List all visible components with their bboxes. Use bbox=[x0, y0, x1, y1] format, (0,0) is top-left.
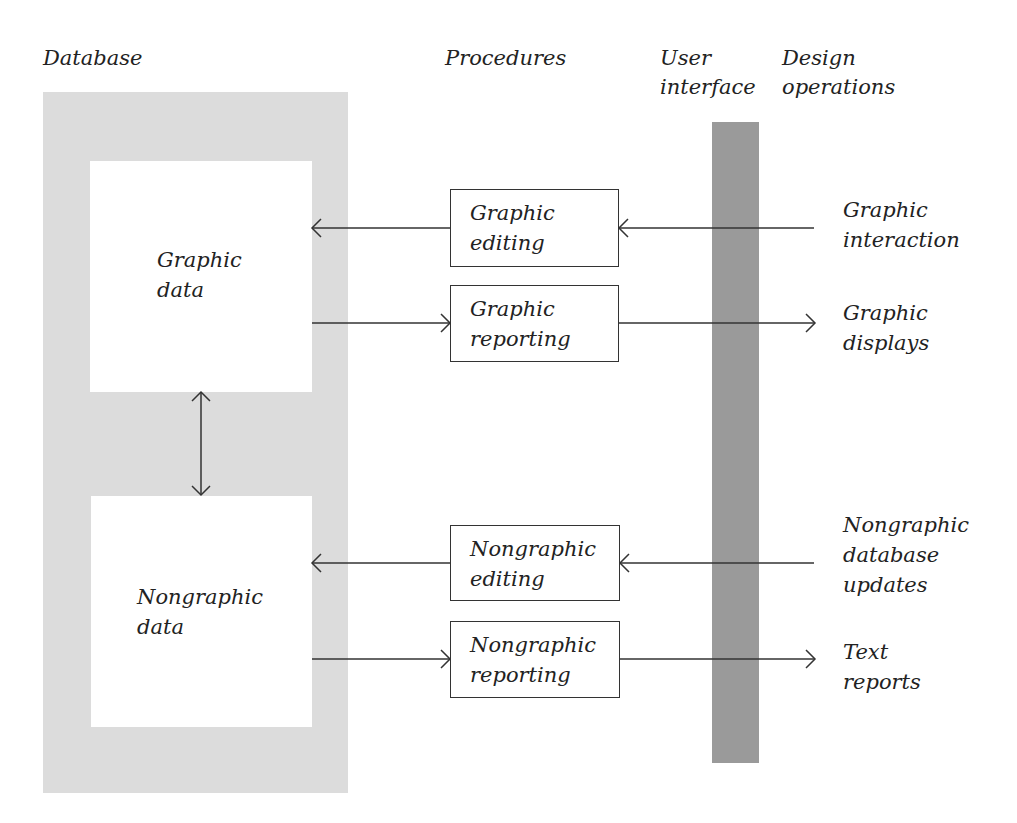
arrow-nongraphic-data-to-reporting bbox=[312, 650, 450, 668]
connector-arrows bbox=[0, 0, 1017, 823]
arrow-nongraphic-reporting-to-text-reports bbox=[620, 650, 815, 668]
arrow-interaction-to-graphic-editing bbox=[619, 219, 814, 237]
graphic-displays-line1: Graphic bbox=[843, 298, 929, 328]
bidirectional-arrow bbox=[192, 392, 210, 495]
nongraphic-updates-line3: updates bbox=[843, 570, 969, 600]
text-reports-label: Text reports bbox=[843, 637, 921, 697]
text-reports-line1: Text bbox=[843, 637, 921, 667]
graphic-displays-line2: displays bbox=[843, 328, 929, 358]
graphic-interaction-label: Graphic interaction bbox=[843, 195, 960, 255]
arrow-graphic-data-to-reporting bbox=[312, 314, 450, 332]
graphic-interaction-line1: Graphic bbox=[843, 195, 960, 225]
nongraphic-updates-label: Nongraphic database updates bbox=[843, 510, 969, 600]
nongraphic-updates-line2: database bbox=[843, 540, 969, 570]
arrow-updates-to-nongraphic-editing bbox=[620, 554, 814, 572]
nongraphic-updates-line1: Nongraphic bbox=[843, 510, 969, 540]
arrow-graphic-reporting-to-displays bbox=[619, 314, 815, 332]
arrow-graphic-editing-to-data bbox=[312, 219, 450, 237]
text-reports-line2: reports bbox=[843, 667, 921, 697]
graphic-displays-label: Graphic displays bbox=[843, 298, 929, 358]
arrow-nongraphic-editing-to-data bbox=[312, 554, 450, 572]
graphic-interaction-line2: interaction bbox=[843, 225, 960, 255]
